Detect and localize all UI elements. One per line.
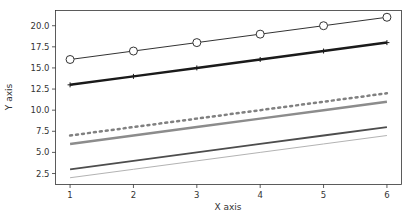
- plus-marker: [68, 82, 73, 87]
- x-tick-label: 6: [384, 190, 389, 200]
- y-tick-label: 7.5: [36, 126, 50, 136]
- line-chart: 123456 2.55.07.510.012.515.017.520.0 X a…: [0, 0, 420, 215]
- series-line: [70, 17, 387, 59]
- circle-marker: [129, 47, 137, 55]
- y-tick-label: 5.0: [36, 147, 50, 157]
- x-tick-label: 5: [321, 190, 326, 200]
- circle-marker: [193, 39, 201, 47]
- x-tick-label: 1: [67, 190, 72, 200]
- series-line-dark-grey: [70, 127, 387, 169]
- y-tick-label: 15.0: [31, 63, 50, 73]
- series-line-thick-black: [68, 40, 390, 87]
- series-line-light-grey: [70, 136, 387, 178]
- series-layer: [66, 13, 391, 177]
- circle-marker: [256, 30, 264, 38]
- y-tick-label: 20.0: [31, 21, 50, 31]
- y-tick-label: 10.0: [31, 105, 50, 115]
- series-line-thick-grey: [70, 102, 387, 144]
- series-line: [70, 127, 387, 169]
- x-axis-ticks: 123456: [67, 185, 389, 200]
- y-tick-label: 17.5: [31, 42, 50, 52]
- series-line: [70, 93, 387, 135]
- circle-marker: [383, 13, 391, 21]
- y-axis-label: Y axis: [4, 83, 14, 111]
- y-tick-label: 12.5: [31, 84, 50, 94]
- plus-marker: [384, 40, 389, 45]
- x-tick-label: 2: [131, 190, 136, 200]
- circle-marker: [320, 22, 328, 30]
- x-axis-label: X axis: [214, 202, 241, 212]
- x-tick-label: 3: [194, 190, 199, 200]
- x-tick-label: 4: [257, 190, 262, 200]
- series-line: [70, 102, 387, 144]
- y-axis-ticks: 2.55.07.510.012.515.017.520.0: [31, 21, 56, 179]
- series-line-circles: [66, 13, 391, 63]
- plus-marker: [258, 57, 263, 62]
- plus-marker: [194, 65, 199, 70]
- circle-marker: [66, 55, 74, 63]
- series-line: [70, 136, 387, 178]
- plus-marker: [131, 74, 136, 79]
- y-tick-label: 2.5: [36, 169, 50, 179]
- plus-marker: [321, 49, 326, 54]
- series-line: [70, 43, 387, 85]
- series-line-dotted: [70, 93, 387, 135]
